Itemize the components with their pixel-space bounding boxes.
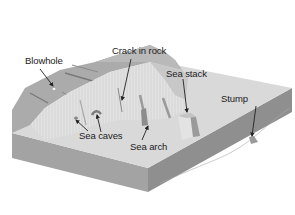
blowhole <box>53 88 56 90</box>
label-sea-caves: Sea caves <box>79 131 122 141</box>
label-sea-arch: Sea arch <box>130 142 167 152</box>
label-sea-stack: Sea stack <box>166 69 207 79</box>
stump <box>249 136 258 144</box>
label-stump: Stump <box>221 94 248 104</box>
label-crack-in-rock: Crack in rock <box>112 46 166 56</box>
sea-cave-2 <box>74 117 78 120</box>
block-diagram-graphic <box>0 0 295 215</box>
label-blowhole: Blowhole <box>25 56 63 66</box>
coastal-landforms-diagram: Blowhole Crack in rock Sea stack Stump S… <box>0 0 295 215</box>
